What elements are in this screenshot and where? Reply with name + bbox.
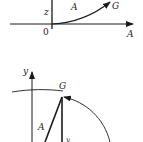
endpoint-label-g: G xyxy=(59,81,66,91)
curve-arrow xyxy=(52,2,110,24)
arc-arrow xyxy=(64,97,110,142)
horizontal-axis-label: A xyxy=(126,29,134,39)
z-axis-label: z xyxy=(43,7,49,17)
y-axis-label: y xyxy=(22,66,29,76)
slanted-line-label: A xyxy=(37,122,45,132)
bottom-figure: y G A y xyxy=(12,66,110,142)
slanted-line xyxy=(45,97,62,142)
arc-left xyxy=(12,90,63,92)
top-figure: z 0 A G A xyxy=(10,0,134,39)
origin-label: 0 xyxy=(43,27,49,37)
vertical-segment-label: y xyxy=(65,136,71,142)
curve-label: A xyxy=(70,2,78,12)
endpoint-label-g: G xyxy=(112,1,119,11)
diagram: z 0 A G A y G A y xyxy=(0,0,143,142)
